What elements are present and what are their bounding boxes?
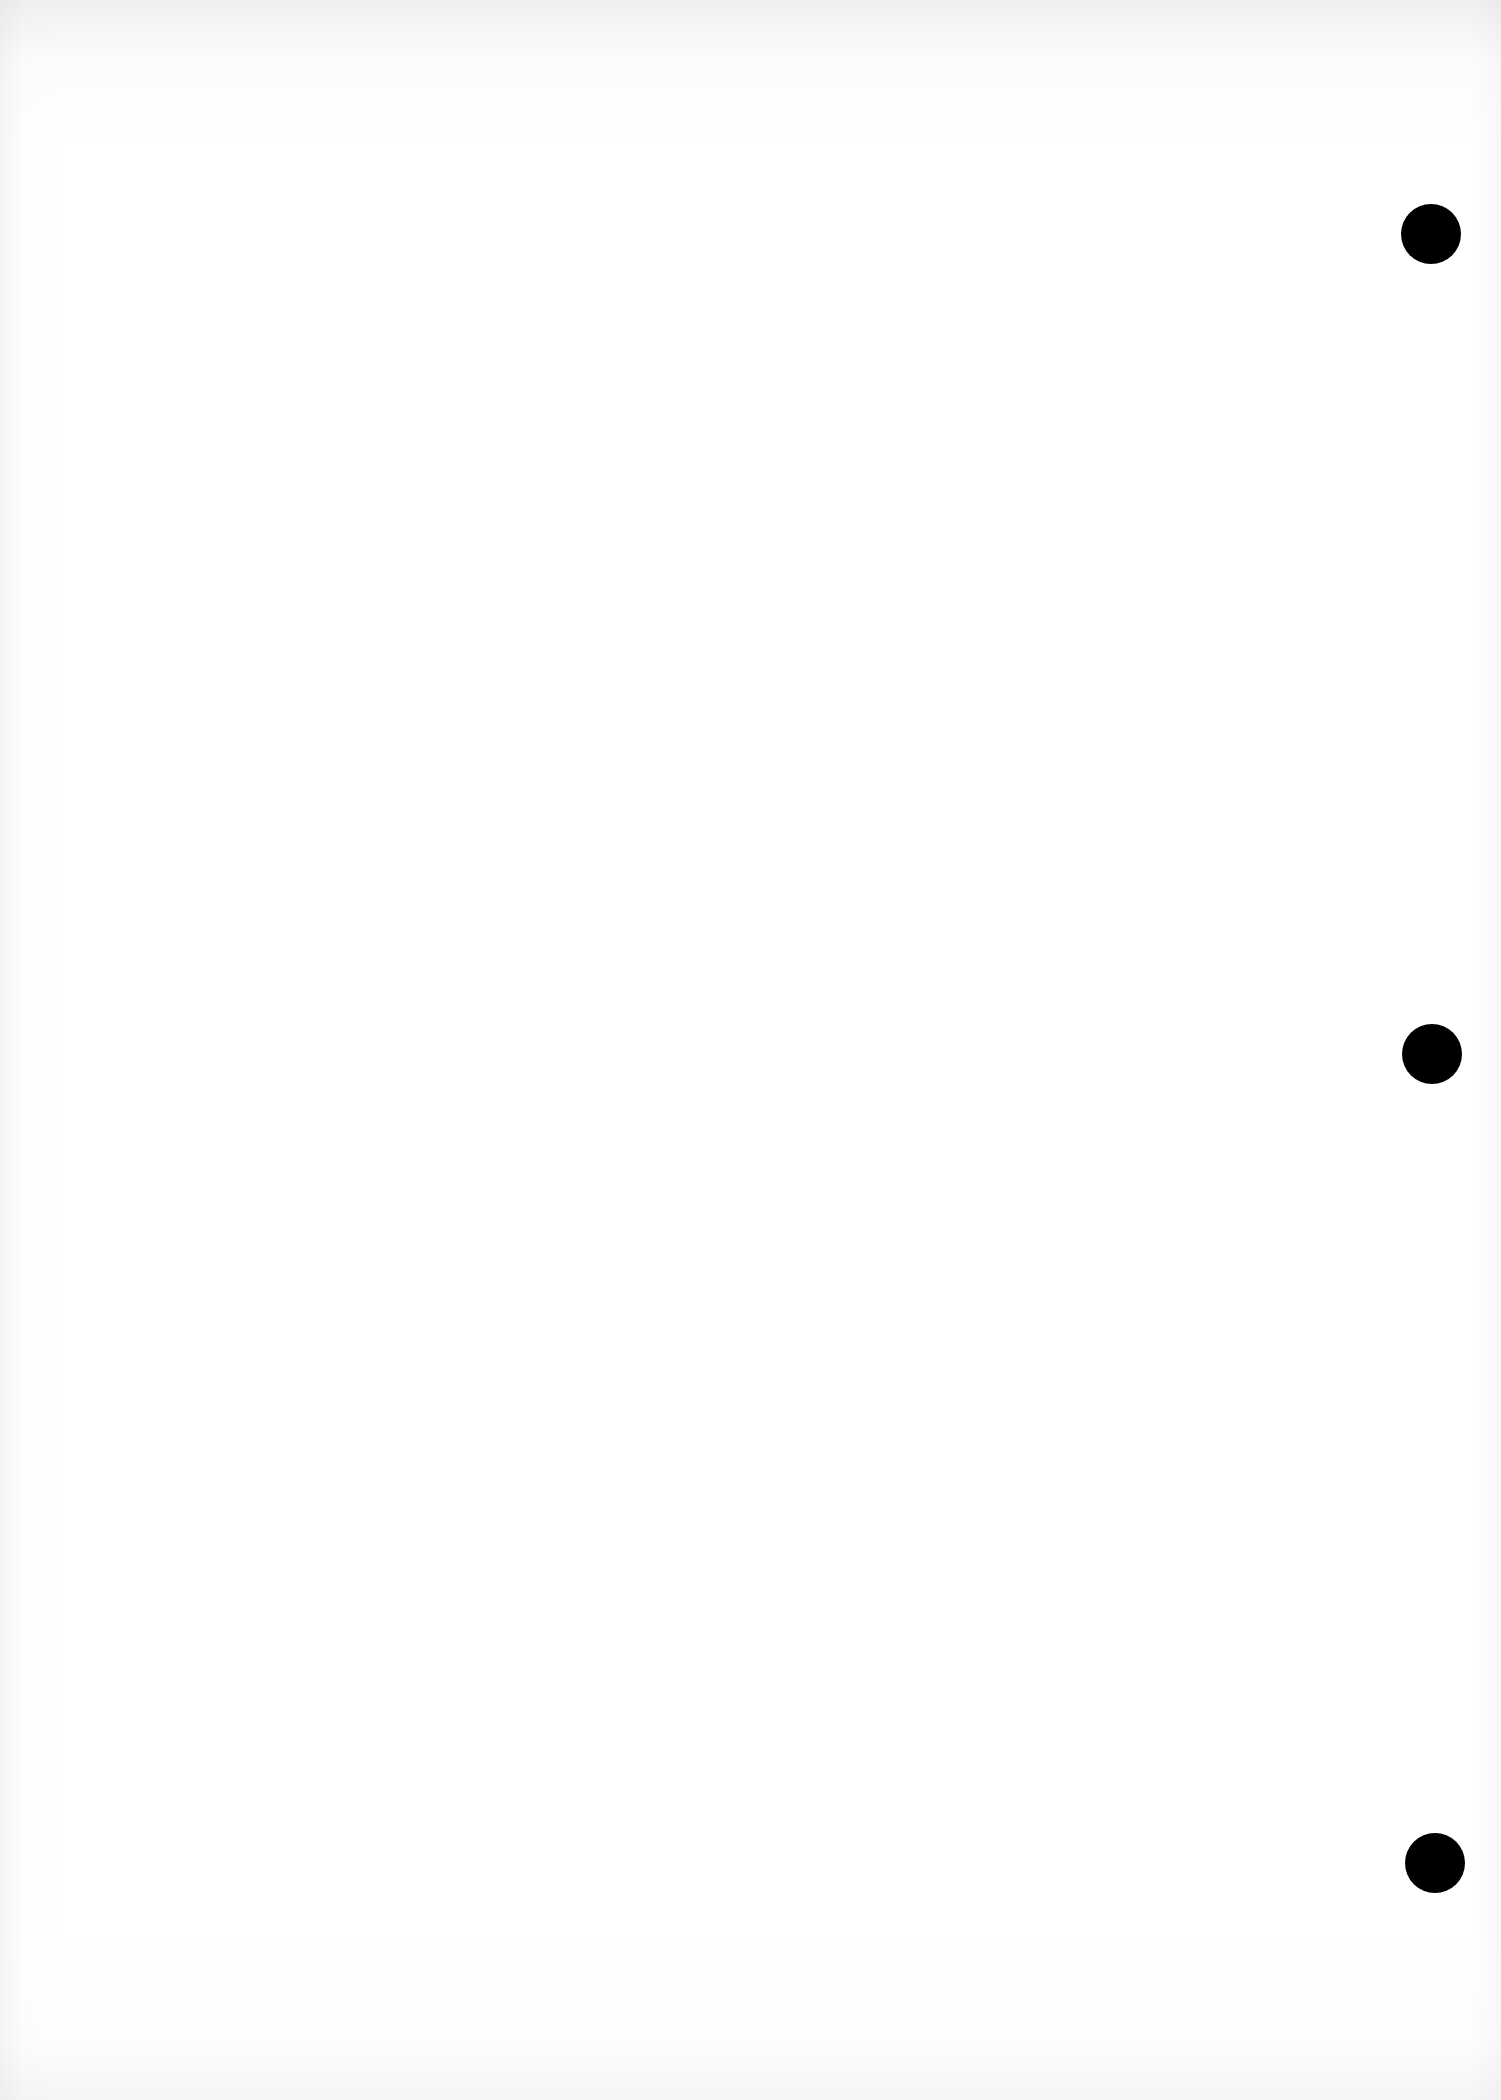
scan-edge-shading (0, 0, 1501, 2100)
punch-hole (1402, 1024, 1462, 1084)
punch-hole (1401, 204, 1461, 264)
punch-hole (1405, 1833, 1465, 1893)
blank-document-page (0, 0, 1501, 2100)
